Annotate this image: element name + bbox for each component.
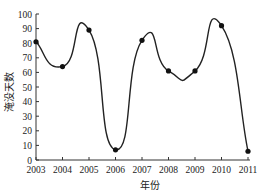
x-tick-label: 2008 — [159, 165, 178, 175]
y-tick-label: 60 — [23, 68, 33, 78]
data-markers — [33, 23, 250, 154]
line-chart: 0102030405060708090100 20032004200520062… — [0, 0, 257, 195]
data-point — [60, 64, 65, 69]
x-tick-label: 2004 — [53, 165, 72, 175]
data-point — [113, 147, 118, 152]
x-tick-label: 2010 — [212, 165, 231, 175]
data-point — [245, 149, 250, 154]
y-tick-label: 30 — [23, 112, 33, 122]
data-point — [192, 68, 197, 73]
x-axis-title: 年份 — [140, 179, 160, 191]
y-tick-label: 20 — [23, 126, 33, 136]
data-point — [219, 23, 224, 28]
y-tick-label: 50 — [23, 83, 33, 93]
data-point — [86, 27, 91, 32]
y-tick-label: 40 — [23, 97, 33, 107]
x-tick-label: 2005 — [80, 165, 99, 175]
y-tick-label: 0 — [27, 156, 32, 166]
y-tick-label: 80 — [23, 39, 33, 49]
y-tick-label: 90 — [23, 24, 33, 34]
y-tick-label: 10 — [23, 141, 33, 151]
data-point — [166, 68, 171, 73]
axes — [36, 14, 250, 160]
x-tick-label: 2007 — [133, 165, 152, 175]
data-point — [33, 39, 38, 44]
y-tick-label: 70 — [23, 53, 33, 63]
x-tick-label: 2006 — [106, 165, 125, 175]
y-tick-label: 100 — [18, 10, 33, 20]
y-axis-title: 淹没天数 — [3, 72, 15, 112]
x-tick-label: 2009 — [186, 165, 205, 175]
x-tick-label: 2003 — [27, 165, 46, 175]
data-point — [139, 38, 144, 43]
x-tick-label: 2011 — [239, 165, 257, 175]
